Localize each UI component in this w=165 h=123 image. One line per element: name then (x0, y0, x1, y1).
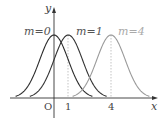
curve-label-m4: m=4 (118, 25, 145, 38)
tick-label-4: 4 (108, 101, 114, 112)
curve-label-m0: m=0 (24, 25, 51, 38)
tick-label-1: 1 (65, 101, 71, 112)
origin-label: O (44, 101, 52, 112)
curve-label-m1: m=1 (76, 25, 103, 38)
y-axis-label: y (44, 2, 52, 15)
normal-curves-diagram: m=0 m=1 m=4 O 1 4 x y (0, 0, 165, 123)
x-axis-label: x (151, 100, 158, 113)
y-axis-arrow-icon (52, 7, 56, 13)
